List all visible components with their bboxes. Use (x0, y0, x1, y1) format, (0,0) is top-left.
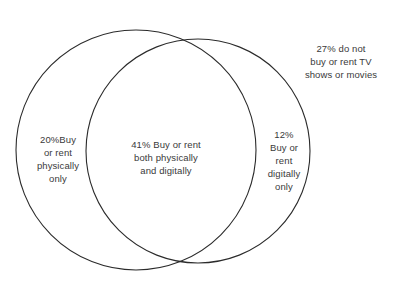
label-digital-only: 12% Buy or rent digitally only (262, 128, 306, 193)
venn-diagram: 20%Buy or rent physically only 41% Buy o… (0, 0, 393, 294)
label-physical-only: 20%Buy or rent physically only (22, 133, 94, 185)
label-both-physical-and-digital: 41% Buy or rent both physically and digi… (113, 138, 219, 177)
label-neither: 27% do not buy or rent TV shows or movie… (294, 42, 388, 81)
